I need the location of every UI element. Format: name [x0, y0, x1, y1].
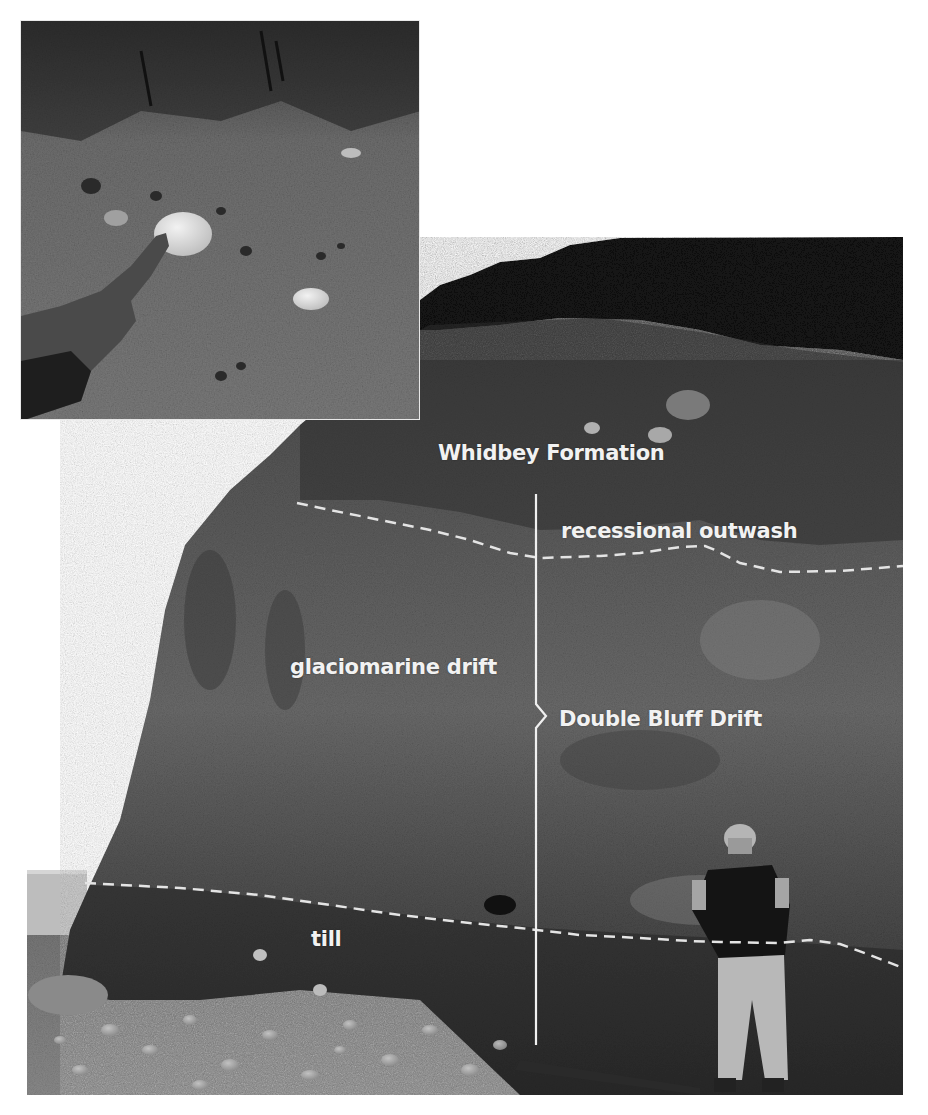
label-whidbey-formation: Whidbey Formation	[438, 441, 664, 465]
label-recessional-outwash: recessional outwash	[561, 519, 797, 543]
label-double-bluff-drift: Double Bluff Drift	[559, 707, 762, 731]
label-till: till	[311, 927, 341, 951]
label-glaciomarine-drift: glaciomarine drift	[290, 655, 497, 679]
inset-photo	[20, 20, 420, 420]
